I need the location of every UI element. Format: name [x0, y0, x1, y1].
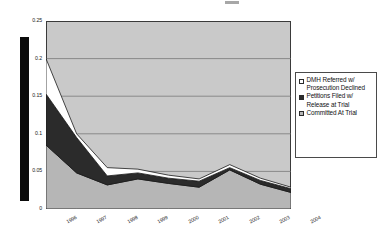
legend-swatch-icon [299, 79, 304, 84]
x-tick-1998: 1998 [126, 214, 138, 224]
x-tick-2003: 2003 [278, 214, 290, 224]
y-tick-0.1: 0.1 [35, 130, 42, 137]
y-tick-0: 0 [39, 205, 42, 212]
y-tick-0.05: 0.05 [32, 167, 42, 174]
legend-swatch-icon [299, 111, 304, 116]
y-tick-0.2: 0.2 [35, 55, 42, 62]
legend-item-committed-at-trial[interactable]: Committed At Trial [299, 109, 374, 117]
y-axis-labels: 0.25 0.2 0.15 0.1 0.05 0 [20, 14, 44, 216]
x-tick-2002: 2002 [248, 214, 260, 224]
x-tick-1999: 1999 [156, 214, 168, 224]
y-tick-0.25: 0.25 [32, 17, 42, 24]
legend-swatch-icon [299, 95, 304, 100]
chart-figure: 0.25 0.2 0.15 0.1 0.05 0 1996 1997 1998 … [0, 0, 381, 235]
x-axis-labels: 1996 1997 1998 1999 2000 2001 2002 2003 … [46, 211, 291, 233]
area-chart-svg [46, 21, 291, 209]
x-tick-2000: 2000 [187, 214, 199, 224]
top-edge-artifact [225, 1, 239, 4]
plot-area [46, 21, 291, 209]
chart-legend: DMH Referred w/ Prosecution Declined Pet… [295, 72, 377, 158]
x-tick-2004: 2004 [309, 214, 321, 224]
x-tick-1996: 1996 [65, 214, 77, 224]
x-tick-2001: 2001 [217, 214, 229, 224]
y-tick-0.15: 0.15 [32, 92, 42, 99]
legend-item-petitions-filed[interactable]: Petitions Filed w/ Release at Trial [299, 92, 374, 108]
x-tick-1997: 1997 [95, 214, 107, 224]
legend-item-dmh-referred[interactable]: DMH Referred w/ Prosecution Declined [299, 76, 374, 92]
legend-label: Committed At Trial [307, 109, 357, 117]
legend-label: Petitions Filed w/ Release at Trial [307, 92, 375, 108]
legend-label: DMH Referred w/ Prosecution Declined [307, 76, 375, 92]
